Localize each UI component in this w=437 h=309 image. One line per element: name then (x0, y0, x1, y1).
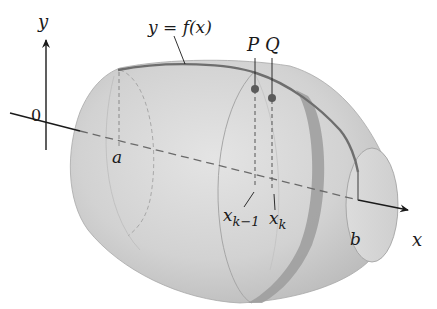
x-axis-left (10, 113, 80, 131)
q-label: Q (265, 34, 280, 55)
y-axis-label: y (37, 11, 49, 32)
p-label: P (246, 34, 260, 55)
point-p (251, 85, 259, 93)
curve-label-leader (174, 36, 185, 64)
curve-label: y = f(x) (147, 17, 212, 37)
origin-label: 0 (31, 106, 41, 125)
a-label: a (112, 147, 122, 167)
x-axis-label: x (412, 229, 422, 250)
b-label: b (350, 229, 361, 249)
solid-of-revolution-diagram: y 0 y = f(x) P Q a b x xk−1 xk (0, 0, 437, 309)
point-q (268, 94, 276, 102)
